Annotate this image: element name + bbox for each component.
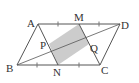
label-p: P — [40, 39, 46, 51]
parallelogram-figure: A M D B N C P Q — [0, 0, 139, 83]
label-b: B — [6, 62, 13, 74]
label-c: C — [101, 64, 108, 76]
label-q: Q — [90, 42, 98, 54]
label-a: A — [27, 17, 35, 29]
label-d: D — [121, 19, 129, 31]
label-m: M — [74, 11, 84, 23]
geometry-diagram: A M D B N C P Q — [0, 0, 139, 83]
diagonal-bd — [17, 24, 120, 65]
label-n: N — [53, 66, 61, 78]
